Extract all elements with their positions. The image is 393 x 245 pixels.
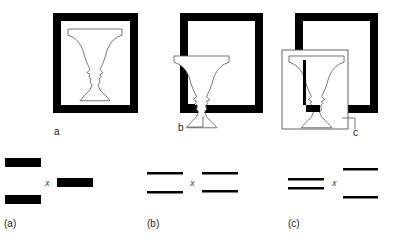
panel-a-bottom: x (a) [4,158,93,229]
line [202,172,238,175]
bar [5,158,41,167]
line [147,191,183,194]
panel-label-a-paren: (a) [4,218,16,229]
line [147,172,183,175]
line [288,178,324,181]
line [288,187,324,190]
bar [57,178,93,187]
fixation-mark: x [44,179,50,188]
figure-canvas: a b c x (a) x (b) [0,0,393,245]
panel-b-top: b [174,13,263,133]
fixation-mark: x [189,179,195,188]
line [343,196,378,199]
line [343,168,378,171]
panel-label-c: c [353,127,358,138]
panel-label-c-paren: (c) [288,218,300,229]
panel-label-b-paren: (b) [147,218,159,229]
fixation-mark: x [331,179,337,188]
line [202,190,238,193]
panel-b-bottom: x (b) [147,172,238,229]
panel-c-top: c [282,13,378,138]
panel-c-bottom: x (c) [288,168,378,229]
bar [5,195,41,204]
panel-label-a: a [54,126,60,137]
panel-label-b: b [178,122,184,133]
panel-a-top: a [53,13,138,137]
